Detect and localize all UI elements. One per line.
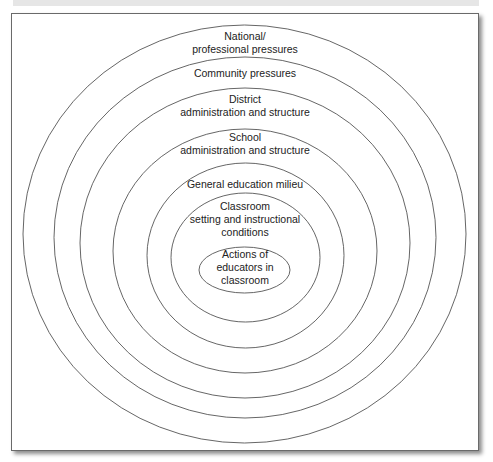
label-school-line1: School bbox=[180, 131, 310, 144]
label-classroom-line3: conditions bbox=[190, 226, 300, 239]
label-milieu: General education milieu bbox=[187, 178, 303, 191]
label-district-line1: District bbox=[180, 93, 310, 106]
label-classroom-line1: Classroom bbox=[190, 200, 300, 213]
label-community-line1: Community pressures bbox=[194, 67, 296, 80]
label-district-line2: administration and structure bbox=[180, 106, 310, 119]
label-classroom-line2: setting and instructional bbox=[190, 213, 300, 226]
label-school-line2: administration and structure bbox=[180, 144, 310, 157]
label-district: District administration and structure bbox=[180, 93, 310, 119]
label-community: Community pressures bbox=[194, 67, 296, 80]
label-actions-line1: Actions of bbox=[216, 248, 273, 261]
label-actions: Actions of educators in classroom bbox=[216, 248, 273, 287]
label-school: School administration and structure bbox=[180, 131, 310, 157]
label-actions-line2: educators in bbox=[216, 261, 273, 274]
label-national-line2: professional pressures bbox=[192, 43, 298, 56]
label-national-line1: National/ bbox=[192, 30, 298, 43]
label-actions-line3: classroom bbox=[216, 274, 273, 287]
label-milieu-line1: General education milieu bbox=[187, 178, 303, 191]
label-national: National/ professional pressures bbox=[192, 30, 298, 56]
label-classroom: Classroom setting and instructional cond… bbox=[190, 200, 300, 239]
